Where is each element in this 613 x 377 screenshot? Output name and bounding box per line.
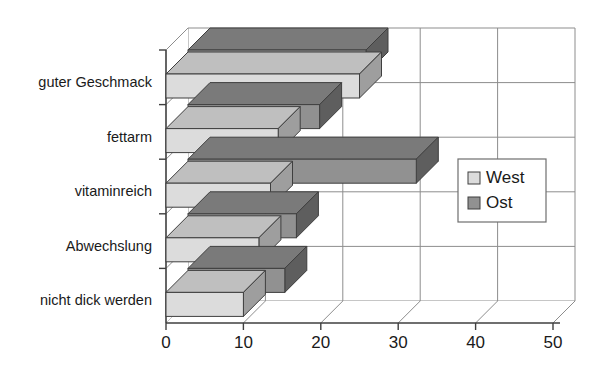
x-tick-label-20: 20 <box>311 333 330 352</box>
legend-label-ost: Ost <box>486 193 513 212</box>
x-tick-label-40: 40 <box>466 333 485 352</box>
bar-top-face <box>188 192 318 214</box>
bar-top-face <box>166 52 382 74</box>
y-tick-label-guter-geschmack: guter Geschmack <box>38 74 152 90</box>
chart-legend[interactable]: West Ost <box>458 159 546 222</box>
bar-chart-svg: guter Geschmack fettarm vitaminreich Abw… <box>0 0 613 377</box>
y-tick-label-abwechslung: Abwechslung <box>66 238 152 254</box>
x-tick-label-10: 10 <box>234 333 253 352</box>
x-tick-label-0: 0 <box>161 333 170 352</box>
bar-top-face <box>188 83 342 105</box>
x-tick-label-50: 50 <box>544 333 563 352</box>
chart-container: guter Geschmack fettarm vitaminreich Abw… <box>0 0 613 377</box>
legend-swatch-west-icon <box>468 172 480 184</box>
y-tick-label-fettarm: fettarm <box>107 129 152 145</box>
x-tick-label-30: 30 <box>389 333 408 352</box>
bar-front-face <box>166 292 243 316</box>
bar-top-face <box>188 137 438 159</box>
legend-label-west: West <box>486 168 525 187</box>
legend-swatch-ost-icon <box>468 197 480 209</box>
y-tick-label-nicht-dick-werden: nicht dick werden <box>40 292 152 308</box>
bar-west-nicht-dick-werden[interactable] <box>166 270 265 316</box>
bar-top-face <box>166 107 300 129</box>
y-tick-label-vitaminreich: vitaminreich <box>75 183 152 199</box>
bar-top-face <box>188 28 388 50</box>
